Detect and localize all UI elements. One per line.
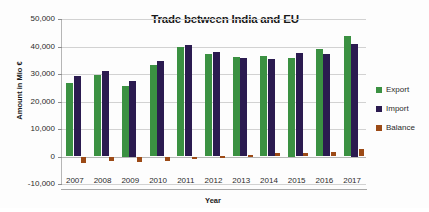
- bar-import: [240, 58, 247, 157]
- bar-balance: [137, 157, 142, 163]
- bar-import: [185, 45, 192, 156]
- bar-export: [66, 83, 73, 157]
- bar-import: [74, 76, 81, 156]
- legend-item[interactable]: Import: [376, 104, 415, 113]
- bar-balance: [331, 152, 336, 157]
- x-tick-label: 2016: [311, 176, 339, 185]
- legend-label: Export: [386, 85, 409, 94]
- bar-import: [296, 53, 303, 156]
- x-tick-label: 2013: [227, 176, 255, 185]
- bar-export: [177, 47, 184, 156]
- bar-export: [344, 36, 351, 156]
- bar-export: [205, 54, 212, 157]
- bar-export: [288, 58, 295, 157]
- bar-balance: [303, 153, 308, 156]
- bar-balance: [192, 157, 197, 159]
- bar-chart: Trade between India and EU Amount in Mio…: [0, 0, 429, 212]
- y-tick-mark: [58, 129, 62, 130]
- bar-balance: [81, 157, 86, 164]
- x-tick-label: 2015: [283, 176, 311, 185]
- bar-balance: [275, 153, 280, 157]
- y-tick-mark: [58, 157, 62, 158]
- x-tick-label: 2007: [61, 176, 89, 185]
- gridline: [62, 157, 366, 158]
- x-tick-label: 2010: [144, 176, 172, 185]
- bar-balance: [248, 155, 253, 157]
- y-tick-mark: [58, 47, 62, 48]
- bar-balance: [165, 157, 170, 161]
- legend-swatch-icon: [376, 106, 382, 112]
- bar-balance: [220, 156, 225, 158]
- x-tick-label: 2011: [172, 176, 200, 185]
- y-tick-label: 40,000: [0, 42, 55, 51]
- gridline: [62, 47, 366, 48]
- y-tick-label: 0: [0, 152, 55, 161]
- x-tick-label: 2012: [200, 176, 228, 185]
- bar-import: [213, 52, 220, 157]
- legend-swatch-icon: [376, 125, 382, 131]
- bar-import: [351, 44, 358, 157]
- y-tick-label: 20,000: [0, 97, 55, 106]
- bar-export: [94, 75, 101, 157]
- x-tick-label: 2008: [89, 176, 117, 185]
- legend-label: Import: [386, 104, 409, 113]
- bar-import: [323, 54, 330, 157]
- y-tick-label: 10,000: [0, 124, 55, 133]
- gridline: [62, 19, 366, 20]
- legend-label: Balance: [386, 123, 415, 132]
- bar-export: [150, 65, 157, 156]
- bar-export: [233, 57, 240, 157]
- y-tick-mark: [58, 102, 62, 103]
- bar-balance: [359, 149, 364, 156]
- y-tick-label: -10,000: [0, 179, 55, 188]
- y-tick-label: 50,000: [0, 14, 55, 23]
- y-tick-mark: [58, 19, 62, 20]
- bar-balance: [109, 157, 114, 161]
- bar-import: [102, 71, 109, 157]
- bar-import: [157, 61, 164, 157]
- bar-export: [260, 56, 267, 157]
- x-tick-label: 2009: [116, 176, 144, 185]
- chart-legend: ExportImportBalance: [376, 85, 415, 142]
- bar-import: [268, 59, 275, 156]
- bar-import: [129, 81, 136, 157]
- x-tick-label: 2014: [255, 176, 283, 185]
- x-axis-label: Year: [60, 196, 366, 205]
- legend-item[interactable]: Balance: [376, 123, 415, 132]
- y-tick-label: 30,000: [0, 69, 55, 78]
- plot-area: [61, 19, 366, 184]
- bottom-edge: [0, 208, 429, 212]
- bar-export: [122, 86, 129, 156]
- bar-export: [316, 49, 323, 157]
- legend-item[interactable]: Export: [376, 85, 415, 94]
- y-tick-mark: [58, 74, 62, 75]
- legend-swatch-icon: [376, 87, 382, 93]
- y-axis-label: Amount in Mio €: [15, 46, 24, 136]
- x-axis-line: [61, 189, 367, 190]
- x-tick-label: 2017: [338, 176, 366, 185]
